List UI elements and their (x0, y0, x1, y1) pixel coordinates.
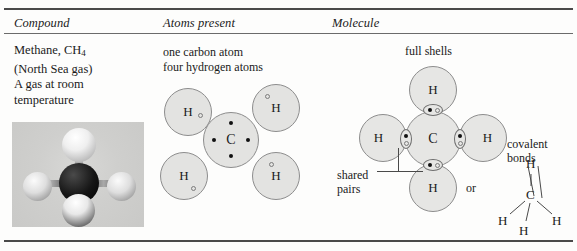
electron-ring (269, 162, 274, 167)
column-header-molecule: Molecule (332, 16, 379, 31)
photo-hydrogen-bottom (62, 194, 95, 227)
electron-dot (428, 163, 432, 167)
electron-ring (435, 108, 440, 113)
atoms-present-caption: one carbon atom four hydrogen atoms (163, 45, 263, 74)
structural-formula: H C H H H (494, 152, 574, 234)
label-full-shells: full shells (405, 44, 452, 59)
atom-symbol: H (469, 130, 506, 146)
shared-pairs-line-2: pairs (337, 182, 368, 196)
electron-dot (428, 108, 432, 112)
column-header-atoms-present: Atoms present (163, 16, 235, 31)
top-rule (4, 8, 573, 10)
methane-model-photo (12, 122, 144, 227)
column-header-compound: Compound (14, 16, 70, 31)
atom-symbol: H (351, 130, 406, 146)
electron-ring (404, 141, 409, 146)
compound-description: Methane, CH4 (North Sea gas) A gas at ro… (14, 43, 154, 108)
electron-dot (229, 121, 233, 125)
photo-hydrogen-top (62, 128, 96, 162)
compound-line-3: A gas at room (14, 77, 154, 93)
compound-line-2: (North Sea gas) (14, 62, 154, 78)
shared-pairs-line-1: shared (337, 168, 368, 182)
atom-carbon: C (203, 112, 259, 168)
atom-symbol: H (410, 82, 456, 98)
structural-hydrogen-right: H (552, 214, 561, 227)
atom-symbol: H (165, 104, 211, 120)
electron-ring (458, 141, 463, 146)
atoms-caption-line-1: one carbon atom (163, 45, 263, 60)
covalent-line-1: covalent (507, 137, 548, 151)
electron-ring (198, 113, 203, 118)
leader-line-shared-pairs-to-left (398, 148, 399, 172)
shared-pair-top (423, 104, 443, 116)
compound-name-text: Methane, CH (14, 43, 81, 57)
bottom-rule (4, 240, 573, 242)
leader-line-shared-pairs-to-bottom (377, 171, 423, 172)
atom-symbol: H (253, 168, 299, 184)
atom-hydrogen-bottom-left: H (160, 152, 208, 200)
atom-hydrogen-bottom-right: H (252, 152, 300, 200)
electron-ring (435, 163, 440, 168)
compound-line-4: temperature (14, 93, 154, 109)
shared-pair-bottom (423, 159, 443, 171)
electron-dot (246, 138, 250, 142)
photo-hydrogen-left (23, 172, 52, 201)
atoms-caption-line-2: four hydrogen atoms (163, 60, 263, 75)
header-divider-rule (4, 33, 573, 34)
structural-hydrogen-left: H (498, 214, 507, 227)
atom-symbol: H (161, 168, 207, 184)
label-shared-pairs: shared pairs (337, 168, 368, 196)
atom-symbol: C (406, 131, 460, 147)
electron-ring (265, 94, 270, 99)
shared-pair-left (400, 129, 412, 149)
electron-dot (458, 134, 462, 138)
electron-dot (404, 134, 408, 138)
electron-dot (229, 154, 233, 158)
molecule-hydrogen-right: H (459, 114, 507, 162)
shared-pair-right (454, 129, 466, 149)
atom-hydrogen-top-right: H (252, 84, 300, 132)
atom-symbol: H (253, 100, 299, 116)
structural-hydrogen-middle: H (519, 224, 528, 237)
atom-symbol: H (410, 180, 456, 196)
structural-hydrogen-top: H (526, 157, 535, 170)
structural-carbon: C (526, 188, 535, 201)
compound-name-line: Methane, CH4 (14, 43, 154, 62)
photo-hydrogen-right (107, 172, 136, 201)
methane-bonding-figure: Compound Atoms present Molecule Methane,… (0, 0, 577, 251)
label-or: or (466, 181, 476, 196)
electron-dot (212, 138, 216, 142)
formula-subscript: 4 (81, 48, 86, 58)
electron-ring (191, 186, 196, 191)
